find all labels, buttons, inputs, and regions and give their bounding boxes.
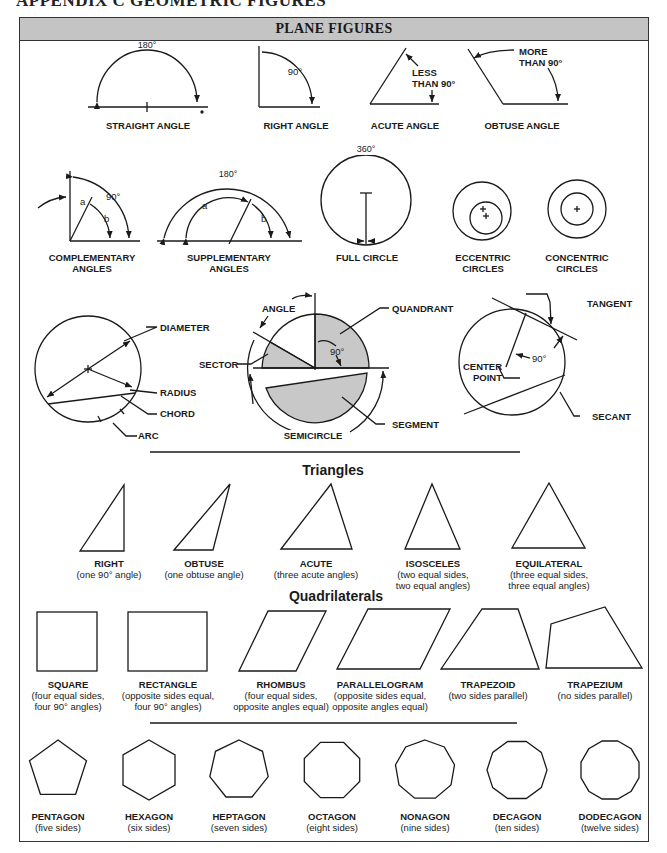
obtuse-angle-label: OBTUSE ANGLE	[484, 120, 559, 131]
triangle-name: ACUTE	[300, 558, 333, 569]
triangle-desc: (three acute angles)	[274, 569, 359, 580]
full-circle-label: FULL CIRCLE	[336, 252, 398, 263]
complementary-a: a	[80, 196, 85, 207]
eccentric-label-2: CIRCLES	[462, 263, 504, 274]
segment-label: SEGMENT	[392, 419, 439, 430]
polygon-pentagon-shape	[30, 740, 87, 794]
quadrilateral-desc: (four equal sides,	[32, 690, 105, 701]
polygon-desc: (eight sides)	[306, 822, 358, 833]
center-point-label-2: POINT	[473, 372, 502, 383]
tangent-label: TANGENT	[587, 298, 632, 309]
circle-parts-diagram	[35, 316, 157, 436]
polygon-name: NONAGON	[400, 811, 450, 822]
quadrilateral-desc: four 90° angles)	[34, 701, 101, 712]
supplementary-label-1: SUPPLEMENTARY	[187, 252, 271, 263]
polygon-octagon-shape	[304, 742, 359, 797]
full-circle-figure	[321, 155, 411, 245]
right-angle-measure: 90°	[288, 66, 302, 77]
complementary-measure: 90°	[106, 191, 120, 202]
secant-label: SECANT	[592, 411, 631, 422]
acute-angle-label: ACUTE ANGLE	[371, 120, 439, 131]
quadrilateral-name: RECTANGLE	[139, 679, 197, 690]
quadrilateral-name: TRAPEZIUM	[567, 679, 622, 690]
quadrilateral-desc: opposite angles equal)	[332, 701, 428, 712]
concentric-label-2: CIRCLES	[556, 263, 598, 274]
quadrilateral-desc: four 90° angles)	[134, 701, 201, 712]
polygon-desc: (twelve sides)	[581, 822, 639, 833]
supplementary-measure: 180°	[219, 169, 238, 180]
triangle-name: EQUILATERAL	[516, 558, 583, 569]
polygon-name: DODECAGON	[579, 811, 642, 822]
complementary-label-1: COMPLEMENTARY	[49, 252, 136, 263]
polygon-desc: (seven sides)	[211, 822, 268, 833]
quadrilateral-name: TRAPEZOID	[461, 679, 516, 690]
eccentric-label-1: ECCENTRIC	[455, 252, 510, 263]
sector-label: SECTOR	[199, 359, 238, 370]
polygon-name: HEXAGON	[125, 811, 173, 822]
eccentric-circles-figure	[453, 182, 511, 240]
triangle-name: RIGHT	[94, 558, 124, 569]
complementary-label-2: ANGLES	[72, 263, 112, 274]
straight-angle-measure: 180°	[138, 40, 157, 51]
polygon-heptagon-shape	[210, 740, 268, 797]
tangent-secant-diagram	[459, 294, 580, 416]
tangent-measure: 90°	[532, 353, 546, 364]
radius-label: RADIUS	[160, 387, 196, 398]
quadrilaterals-heading: Quadrilaterals	[289, 588, 383, 604]
angle-label: ANGLE	[262, 303, 295, 314]
polygon-name: HEPTAGON	[212, 811, 265, 822]
triangle-desc: two equal angles)	[396, 580, 470, 591]
polygon-hexagon-shape	[123, 740, 175, 800]
polygon-nonagon-shape	[396, 740, 455, 798]
quadrilateral-desc: (no sides parallel)	[558, 690, 633, 701]
polygon-desc: (five sides)	[35, 822, 81, 833]
arc-label: ARC	[138, 430, 159, 441]
obtuse-measure-line2: THAN 90°	[519, 57, 562, 68]
supplementary-a: a	[202, 200, 207, 211]
diameter-label: DIAMETER	[160, 322, 210, 333]
quadrilateral-desc: (two sides parallel)	[448, 690, 527, 701]
full-circle-measure: 360°	[355, 144, 378, 155]
polygon-desc: (six sides)	[128, 822, 171, 833]
concentric-circles-figure	[548, 180, 606, 238]
quadrant-measure: 90°	[330, 346, 344, 357]
quadrilateral-desc: (opposite sides equal,	[122, 690, 214, 701]
quadrilateral-desc: opposite angles equal)	[233, 701, 329, 712]
complementary-angles-figure	[38, 171, 140, 241]
obtuse-measure-line1: MORE	[519, 46, 548, 57]
sector-quadrant-diagram	[237, 293, 389, 433]
center-point-label-1: CENTER	[463, 361, 502, 372]
figures-artwork	[0, 0, 667, 853]
polygon-desc: (ten sides)	[495, 822, 539, 833]
quadrilateral-desc: (four equal sides,	[245, 690, 318, 701]
semicircle-label: SEMICIRCLE	[282, 430, 345, 441]
triangles-heading: Triangles	[302, 462, 363, 478]
supplementary-angles-figure	[157, 189, 302, 244]
quadrant-label: QUANDRANT	[392, 303, 453, 314]
triangle-name: ISOSCELES	[406, 558, 460, 569]
acute-measure-line1: LESS	[412, 67, 437, 78]
acute-measure-line2: THAN 90°	[412, 78, 455, 89]
polygon-name: DECAGON	[493, 811, 542, 822]
polygon-desc: (nine sides)	[400, 822, 449, 833]
triangle-desc: (one 90° angle)	[76, 569, 141, 580]
triangle-desc: three equal angles)	[508, 580, 589, 591]
quadrilateral-name: SQUARE	[48, 679, 89, 690]
supplementary-label-2: ANGLES	[209, 263, 249, 274]
straight-angle-label: STRAIGHT ANGLE	[106, 120, 190, 131]
quadrilateral-name: RHOMBUS	[256, 679, 305, 690]
triangle-name: OBTUSE	[184, 558, 224, 569]
triangle-desc: (one obtuse angle)	[164, 569, 243, 580]
right-angle-label: RIGHT ANGLE	[263, 120, 328, 131]
triangle-desc: (three equal sides,	[510, 569, 588, 580]
straight-angle-figure	[88, 50, 208, 113]
chord-label: CHORD	[160, 408, 195, 419]
polygon-dodecagon-shape	[581, 741, 639, 799]
concentric-label-1: CONCENTRIC	[545, 252, 608, 263]
supplementary-b: b	[261, 213, 266, 224]
polygon-name: OCTAGON	[308, 811, 356, 822]
quadrilateral-desc: (opposite sides equal,	[334, 690, 426, 701]
quadrilateral-shapes	[37, 607, 642, 671]
polygon-name: PENTAGON	[31, 811, 84, 822]
triangle-desc: (two equal sides,	[397, 569, 468, 580]
